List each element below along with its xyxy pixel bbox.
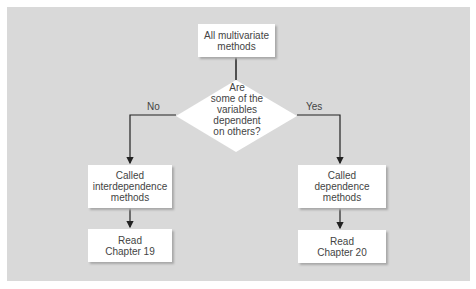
- start-box: All multivariate methods: [198, 24, 275, 57]
- read-chapter-20-box: Read Chapter 20: [298, 230, 386, 263]
- right-method-line-1: Called: [328, 170, 356, 181]
- decision-line-2: some of the: [192, 93, 282, 104]
- read-chapter-19-box: Read Chapter 19: [88, 229, 172, 262]
- start-line-1: All multivariate: [204, 30, 269, 41]
- right-read-line-2: Chapter 20: [317, 247, 366, 258]
- right-method-line-3: methods: [323, 192, 361, 203]
- decision-line-4: dependent: [192, 115, 282, 126]
- right-read-line-1: Read: [330, 236, 354, 247]
- decision-line-5: on others?: [192, 126, 282, 137]
- left-method-line-1: Called: [116, 170, 144, 181]
- left-read-line-2: Chapter 19: [105, 246, 154, 257]
- no-label: No: [147, 101, 160, 112]
- decision-line-3: variables: [192, 104, 282, 115]
- left-method-line-3: methods: [111, 192, 149, 203]
- dependence-box: Called dependence methods: [298, 165, 386, 208]
- interdependence-box: Called interdependence methods: [88, 165, 172, 208]
- start-line-2: methods: [217, 41, 255, 52]
- left-method-line-2: interdependence: [93, 181, 168, 192]
- right-method-line-2: dependence: [314, 181, 369, 192]
- yes-label: Yes: [306, 101, 322, 112]
- decision-text: Are some of the variables dependent on o…: [192, 82, 282, 137]
- decision-line-1: Are: [192, 82, 282, 93]
- left-read-line-1: Read: [118, 235, 142, 246]
